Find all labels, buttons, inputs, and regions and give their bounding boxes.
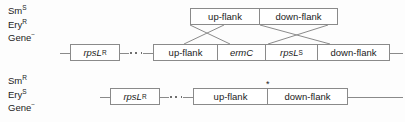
middle-rpsl-marker-box: rpsLR [70,44,120,61]
middle-cell-ermc: ermC [217,45,265,60]
bottom-cell-up-flank: up-flank [194,89,267,104]
dot-1 [130,52,132,54]
middle-row-left-line [60,53,70,54]
bottom-row-left-line [100,97,110,98]
middle-chromosome-box: up-flank ermC rpsLS down-flank [153,44,390,61]
middle-row-right-line [389,53,403,54]
middle-connector-line-left [119,53,129,54]
phenotype-bottom-line-2: EryS [8,88,35,102]
bottom-rpsl-marker-box: rpsLR [110,88,160,105]
diagram-canvas: SmS EryR Gene− SmR EryS Gene− up-flank d… [0,0,405,122]
middle-cell-down-flank: down-flank [317,45,389,60]
phenotype-top-sup-1: S [22,4,26,11]
bottom-connector-line-left [159,97,169,98]
phenotype-bottom-sup-1: R [22,74,27,81]
bottom-connector-dots [170,96,182,98]
phenotype-bottom-line-3: Gene− [8,101,35,115]
phenotype-top-line-2: EryR [8,18,35,32]
construct-top-cell-up-flank: up-flank [191,9,259,24]
phenotype-top-line-3: Gene− [8,31,35,45]
middle-connector-line-right [143,53,153,54]
phenotype-bottom-sup-3: − [31,101,35,108]
middle-connector-dots [130,52,142,54]
bottom-connector-line-right [183,97,193,98]
bottom-row-right-line [347,97,403,98]
middle-cell-up-flank: up-flank [154,45,217,60]
middle-rpsl-marker-label: rpsLR [71,45,119,60]
dot-3 [181,96,183,98]
dot-2 [175,96,177,98]
crossover-lines [150,25,365,45]
middle-cell-rpsl-s: rpsLS [265,45,317,60]
phenotype-bottom-line-1: SmR [8,74,35,88]
phenotype-top-line-1: SmS [8,4,35,18]
phenotype-bottom-sup-2: S [22,87,26,94]
bottom-chromosome-box: up-flank down-flank [193,88,348,105]
construct-top-cell-down-flank: down-flank [259,9,337,24]
construct-top-box: up-flank down-flank [190,8,338,25]
dot-1 [170,96,172,98]
phenotype-label-top: SmS EryR Gene− [8,4,35,45]
phenotype-top-sup-3: − [31,31,35,38]
dot-2 [135,52,137,54]
dot-3 [141,52,143,54]
phenotype-label-bottom: SmR EryS Gene− [8,74,35,115]
bottom-cell-down-flank: down-flank [267,89,347,104]
phenotype-top-sup-2: R [22,17,27,24]
bottom-rpsl-marker-label: rpsLR [111,89,159,104]
